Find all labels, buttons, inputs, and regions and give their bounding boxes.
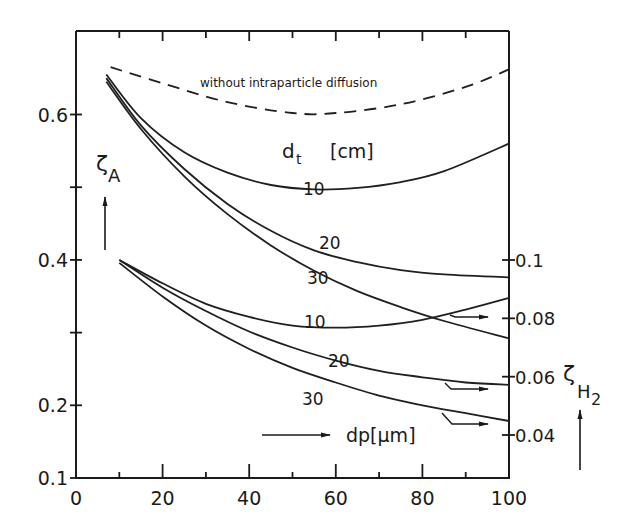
x-tick-label: 80 xyxy=(410,487,434,509)
y-right-tick-label: 0.04 xyxy=(515,425,555,446)
y-right-label: ζ H 2 xyxy=(563,361,601,470)
x-axis-label: dp[µm] xyxy=(262,424,416,446)
dashed-curve-label: without intraparticle diffusion xyxy=(200,76,377,90)
y-left-label: ζ A xyxy=(96,151,121,250)
dt-symbol: d xyxy=(282,139,295,163)
x-tick-label: 20 xyxy=(151,487,175,509)
pointer-arrow-icon xyxy=(442,413,488,424)
dt-subscript: t xyxy=(296,151,302,167)
y-left-tick-label: 0.6 xyxy=(38,104,68,126)
series-line xyxy=(106,78,509,277)
zeta-h2-subscript: H xyxy=(577,381,591,402)
dt-unit: [cm] xyxy=(330,140,374,162)
top-axis-ticks xyxy=(119,31,465,41)
dt-legend-label: d t [cm] xyxy=(282,139,374,167)
y-right-tick-label: 0.08 xyxy=(515,308,555,329)
curves xyxy=(106,67,509,421)
x-axis-ticks: 020406080100 xyxy=(70,464,527,509)
label-zH2-30: 30 xyxy=(302,389,324,409)
x-tick-label: 40 xyxy=(237,487,261,509)
y-left-tick-label: 0.1 xyxy=(38,467,68,489)
x-tick-label: 60 xyxy=(324,487,348,509)
y-left-tick-label: 0.2 xyxy=(38,394,68,416)
y-left-tick-label: 0.4 xyxy=(38,249,68,271)
chart: 020406080100 0.10.20.40.6 0.040.060.080.… xyxy=(0,0,641,532)
label-zA-30: 30 xyxy=(307,268,329,288)
series-line xyxy=(111,67,509,114)
zeta-a-symbol: ζ xyxy=(96,151,108,176)
label-zA-20: 20 xyxy=(319,233,341,253)
label-zH2-20: 20 xyxy=(328,351,350,371)
y-right-tick-label: 0.1 xyxy=(515,250,544,271)
zeta-h2-subscript2: 2 xyxy=(591,390,601,409)
label-zH2-10: 10 xyxy=(304,312,326,332)
zeta-h2-symbol: ζ xyxy=(563,361,575,386)
x-axis-title: dp[µm] xyxy=(346,424,416,446)
x-tick-label: 100 xyxy=(491,487,527,509)
x-tick-label: 0 xyxy=(70,487,82,509)
plot-frame xyxy=(75,31,510,479)
zeta-a-subscript: A xyxy=(108,165,121,186)
label-zA-10: 10 xyxy=(303,179,325,199)
pointer-arrow-icon xyxy=(450,315,488,317)
y-right-tick-label: 0.06 xyxy=(515,367,555,388)
